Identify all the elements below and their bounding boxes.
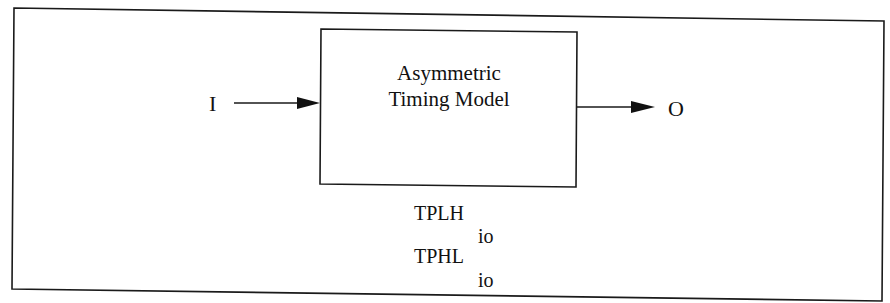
- param-tplh-subscript: io: [478, 226, 494, 246]
- input-label: I: [209, 93, 216, 115]
- param-tplh: TPLH: [414, 203, 464, 223]
- param-tphl: TPHL: [414, 246, 464, 266]
- input-arrowhead-icon: [297, 97, 320, 109]
- block-title-line1: Asymmetric: [320, 60, 578, 86]
- param-tphl-subscript: io: [478, 270, 494, 290]
- output-label: O: [668, 98, 684, 120]
- output-arrowhead-icon: [631, 101, 655, 113]
- block-title-line2: Timing Model: [320, 86, 578, 112]
